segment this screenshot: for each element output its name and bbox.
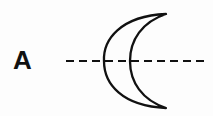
diagram-canvas (0, 0, 213, 116)
